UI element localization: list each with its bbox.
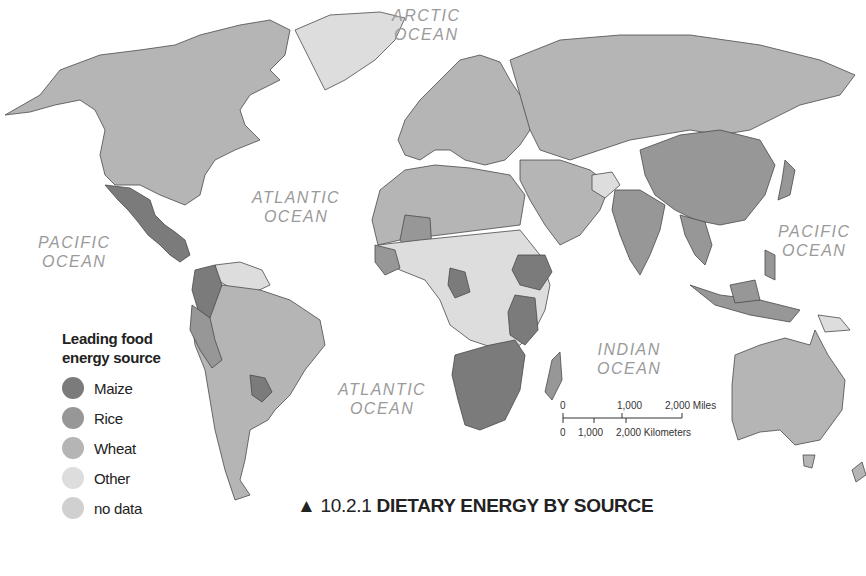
ocean-label-line: OCEAN: [597, 359, 661, 378]
ocean-label-line: ATLANTIC: [338, 380, 426, 399]
region-india: [612, 190, 665, 275]
ocean-label-atlantic-south: ATLANTIC OCEAN: [338, 380, 426, 418]
region-new-zealand: [852, 462, 866, 482]
legend-label: Maize: [94, 380, 133, 397]
scale-tick-label: 1,000: [617, 400, 642, 411]
legend-item-maize: Maize: [62, 373, 161, 403]
legend-item-other: Other: [62, 463, 161, 493]
legend-title: Leading food energy source: [62, 329, 161, 367]
legend-label: Rice: [94, 410, 123, 427]
legend-item-wheat: Wheat: [62, 433, 161, 463]
ocean-label-line: OCEAN: [392, 25, 461, 44]
legend-item-rice: Rice: [62, 403, 161, 433]
scale-bar: 0 1,000 2,000 Miles 0 1,000 2,000 Kilome…: [560, 400, 760, 450]
scale-tick-label: 0: [560, 400, 566, 411]
ocean-label-line: OCEAN: [338, 399, 426, 418]
region-borneo: [730, 280, 760, 303]
legend-label: no data: [94, 500, 142, 517]
region-png: [818, 315, 850, 332]
ocean-label-line: ATLANTIC: [252, 188, 340, 207]
ocean-label-indian: INDIAN OCEAN: [597, 340, 661, 378]
region-southern-africa: [452, 340, 525, 430]
ocean-label-line: OCEAN: [252, 207, 340, 226]
figure-caption: ▲ 10.2.1DIETARY ENERGY BY SOURCE: [297, 495, 653, 517]
scale-tick-label: 2,000 Miles: [665, 400, 716, 411]
ocean-label-line: ARCTIC: [392, 6, 461, 25]
ocean-label-arctic: ARCTIC OCEAN: [392, 6, 461, 44]
legend-label: Wheat: [94, 440, 136, 457]
legend-title-line: Leading food: [62, 329, 161, 348]
ocean-label-pacific-west: PACIFIC OCEAN: [38, 233, 110, 271]
scale-tick-label: 2,000 Kilometers: [616, 427, 691, 438]
swatch-circle-icon: [62, 467, 84, 489]
swatch-circle-icon: [62, 377, 84, 399]
swatch-circle-icon: [62, 497, 84, 519]
ocean-label-pacific-east: PACIFIC OCEAN: [778, 222, 850, 260]
map-legend: Leading food energy source Maize Rice Wh…: [62, 329, 161, 523]
legend-item-no-data: no data: [62, 493, 161, 523]
region-greenland: [295, 12, 405, 90]
swatch-circle-icon: [62, 407, 84, 429]
swatch-circle-icon: [62, 437, 84, 459]
ocean-label-line: PACIFIC: [38, 233, 110, 252]
ocean-label-line: OCEAN: [38, 252, 110, 271]
figure-number: 10.2.1: [321, 495, 372, 516]
ocean-label-line: INDIAN: [597, 340, 661, 359]
triangle-up-icon: ▲: [297, 495, 316, 516]
region-philippines: [765, 250, 775, 280]
region-middle-east: [520, 160, 610, 245]
scale-tick-label: 0: [560, 427, 566, 438]
scale-tick-label: 1,000: [578, 427, 603, 438]
region-tasmania: [803, 455, 815, 468]
ocean-label-line: PACIFIC: [778, 222, 850, 241]
legend-title-line: energy source: [62, 348, 161, 367]
region-madagascar: [545, 352, 562, 400]
region-north-america: [5, 20, 290, 205]
ocean-label-atlantic-north: ATLANTIC OCEAN: [252, 188, 340, 226]
figure-title: DIETARY ENERGY BY SOURCE: [377, 495, 654, 516]
ocean-label-line: OCEAN: [778, 241, 850, 260]
scale-line: [560, 413, 690, 425]
region-japan: [778, 160, 795, 200]
legend-label: Other: [94, 470, 130, 487]
